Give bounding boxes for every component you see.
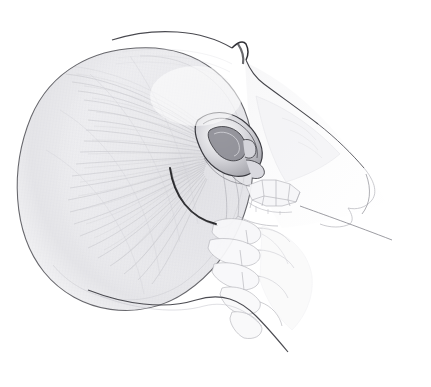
occipital-highlight xyxy=(150,66,242,126)
anatomical-drawing xyxy=(0,0,431,387)
illustration-stage: Lateral view of the head with superficia… xyxy=(0,0,431,387)
artwork-layer xyxy=(0,0,431,387)
